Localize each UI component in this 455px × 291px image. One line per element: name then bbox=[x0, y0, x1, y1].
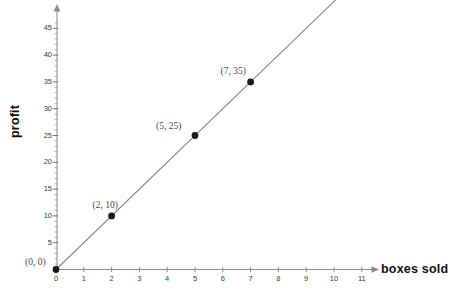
data-line-series bbox=[56, 0, 376, 270]
y-tick-label: 10 bbox=[32, 211, 52, 220]
data-point-label: (5, 25) bbox=[156, 121, 181, 131]
y-tick-label: 5 bbox=[32, 238, 52, 247]
x-tick-label: 8 bbox=[270, 274, 286, 283]
y-tick-label: 40 bbox=[32, 50, 52, 59]
y-tick-label: 25 bbox=[32, 131, 52, 140]
y-tick-label: 45 bbox=[32, 23, 52, 32]
x-axis-title: boxes sold bbox=[381, 262, 448, 276]
plot-area bbox=[0, 0, 455, 291]
x-tick-label: 5 bbox=[187, 274, 203, 283]
y-axis bbox=[54, 4, 61, 270]
data-point bbox=[247, 79, 254, 86]
data-point-label: (2, 10) bbox=[93, 200, 118, 210]
data-point bbox=[192, 132, 199, 139]
x-axis bbox=[56, 266, 379, 273]
data-point bbox=[53, 266, 60, 273]
x-tick-label: 9 bbox=[298, 274, 314, 283]
x-tick-label: 4 bbox=[159, 274, 175, 283]
y-tick-label: 35 bbox=[32, 77, 52, 86]
x-tick-label: 11 bbox=[354, 274, 370, 283]
y-tick-label: 15 bbox=[32, 184, 52, 193]
chart-canvas: profit boxes sold 5101520253035404501234… bbox=[0, 0, 455, 291]
data-point bbox=[108, 213, 115, 220]
data-point-label: (7, 35) bbox=[221, 66, 246, 76]
y-tick-label: 30 bbox=[32, 104, 52, 113]
y-tick-label: 20 bbox=[32, 157, 52, 166]
x-tick-label: 2 bbox=[104, 274, 120, 283]
x-tick-label: 1 bbox=[76, 274, 92, 283]
x-tick-label: 3 bbox=[131, 274, 147, 283]
x-tick-label: 7 bbox=[243, 274, 259, 283]
x-tick-label: 10 bbox=[326, 274, 342, 283]
x-tick-label: 6 bbox=[215, 274, 231, 283]
x-tick-label: 0 bbox=[48, 274, 64, 283]
data-point-label: (0, 0) bbox=[25, 257, 46, 267]
y-axis-title: profit bbox=[8, 108, 22, 138]
